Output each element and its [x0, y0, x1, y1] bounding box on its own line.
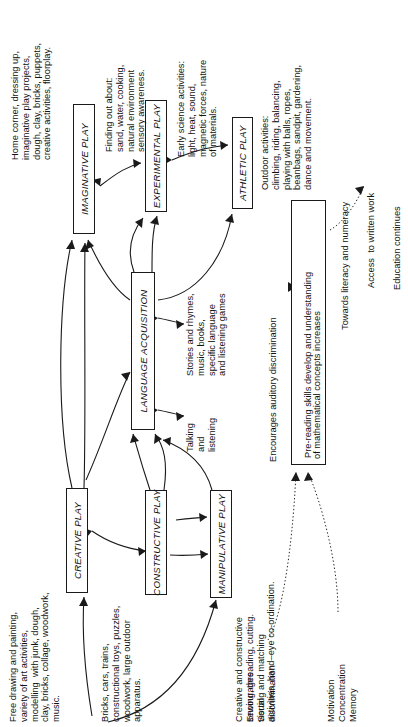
box-pre-reading-outcome-text2: of mathematical concepts increases [309, 200, 326, 465]
note-visual-discrimination-text: Encourages visual discrimination [245, 665, 277, 722]
note-towards-literacy-numeracy: Towards literacy and numeracy [340, 202, 351, 330]
note-auditory-discrimination: Encourages auditory discrimination [268, 317, 279, 462]
note-talking-and-listening: Talking and listening [185, 418, 217, 452]
box-manipulative-play[interactable]: MANIPULATIVE PLAY [210, 490, 232, 598]
box-imaginative-play[interactable]: IMAGINATIVE PLAY [73, 104, 95, 234]
note-constructive-materials: Bricks, cars, trains, constructional toy… [100, 606, 143, 722]
diagram-canvas: IMAGINATIVE PLAY EXPERIMENTAL PLAY ATHLE… [0, 0, 408, 727]
note-education-continues: Education continues [392, 206, 403, 290]
note-early-science-activities: Early science activities: light, heat, s… [176, 60, 219, 157]
box-athletic-play[interactable]: ATHLETIC PLAY [232, 117, 253, 209]
note-outdoor-activities: Outdoor activities: climbing, riding, ba… [260, 65, 314, 190]
note-motivation-concentration-memory: Motivation Concentration Memory [326, 664, 358, 722]
box-experimental-play[interactable]: EXPERIMENTAL PLAY [145, 100, 167, 212]
box-creative-play[interactable]: CREATIVE PLAY [66, 488, 88, 593]
note-imaginative-activities: Home corner, dressing up, imaginative pl… [10, 43, 53, 160]
box-language-acquisition[interactable]: LANGUAGE ACQUISITION [131, 272, 155, 430]
note-experimental-activities: Finding out about: sand, water, cooking,… [104, 65, 147, 152]
note-creative-activities: Free drawing and painting, variety of ar… [8, 592, 62, 722]
box-constructive-play[interactable]: CONSTRUCTIVE PLAY [145, 490, 167, 595]
note-access-to-written-work: Access to written work [366, 193, 377, 288]
note-language-materials: Stories and rhymes, music, books, specif… [185, 293, 228, 376]
pre-reading-line-2: of mathematical concepts increases [312, 311, 323, 459]
